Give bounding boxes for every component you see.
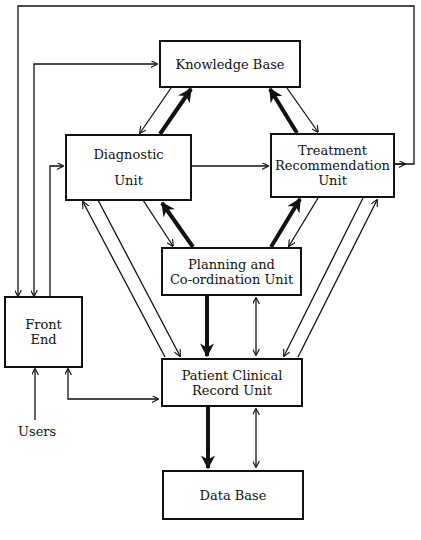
data-base-label: Data Base xyxy=(200,488,267,503)
diagnostic-label-line1: Diagnostic xyxy=(93,147,163,162)
front-end-label-line2: End xyxy=(30,332,56,347)
users-label: Users xyxy=(18,424,56,439)
front-end-label-line1: Front xyxy=(25,317,62,332)
treatment-recommendation-node: Treatment Recommendation Unit xyxy=(270,133,395,198)
patient-label-line1: Patient Clinical xyxy=(182,368,283,383)
treatment-label-line3: Unit xyxy=(318,173,347,188)
diagnostic-unit-node: Diagnostic Unit xyxy=(65,134,192,201)
patient-label-line2: Record Unit xyxy=(192,383,272,398)
treatment-label-line2: Recommendation xyxy=(275,158,390,173)
planning-label-line2: Co-ordination Unit xyxy=(170,272,293,287)
front-end-node: Front End xyxy=(4,296,83,368)
planning-coordination-node: Planning and Co-ordination Unit xyxy=(161,247,302,296)
knowledge-base-label: Knowledge Base xyxy=(175,57,284,72)
knowledge-base-node: Knowledge Base xyxy=(159,40,301,88)
diagnostic-label-line2: Unit xyxy=(114,173,143,188)
planning-label-line1: Planning and xyxy=(188,257,275,272)
edge-frontend-to-diagnostic xyxy=(50,166,63,296)
patient-clinical-record-node: Patient Clinical Record Unit xyxy=(161,358,303,407)
treatment-label-line1: Treatment xyxy=(298,143,367,158)
data-base-node: Data Base xyxy=(162,470,304,520)
